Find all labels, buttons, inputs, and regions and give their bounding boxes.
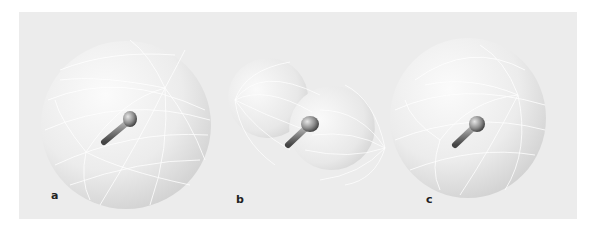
- panel-c-sphere: [390, 38, 546, 198]
- panel-label-a: a: [51, 189, 58, 202]
- panel-b-dipole: [217, 47, 387, 185]
- panel-label-c: c: [426, 193, 433, 206]
- figure-canvas: [0, 0, 596, 236]
- panel-a-sphere: [41, 40, 211, 209]
- panel-label-b: b: [236, 193, 244, 206]
